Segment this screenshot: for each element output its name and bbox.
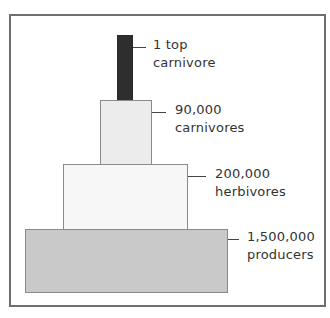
- herbivores-label: 200,000 herbivores: [215, 165, 286, 201]
- producers-group: producers: [247, 246, 315, 264]
- producers-block: [25, 229, 228, 293]
- carnivores-group: carnivores: [175, 119, 245, 137]
- herbivores-group: herbivores: [215, 183, 286, 201]
- herbivores-count: 200,000: [215, 165, 286, 183]
- carnivores-block: [100, 100, 152, 166]
- top-carnivore-leader-line: [133, 47, 146, 48]
- top-carnivore-bar: [117, 35, 133, 101]
- top-carnivore-group: carnivore: [153, 54, 216, 72]
- top-carnivore-label: 1 top carnivore: [153, 36, 216, 72]
- carnivores-count: 90,000: [175, 101, 245, 119]
- producers-count: 1,500,000: [247, 228, 315, 246]
- carnivores-label: 90,000 carnivores: [175, 101, 245, 137]
- carnivores-leader-line: [152, 112, 166, 113]
- producers-label: 1,500,000 producers: [247, 228, 315, 264]
- top-carnivore-count: 1 top: [153, 36, 216, 54]
- producers-leader-line: [228, 239, 239, 240]
- herbivores-leader-line: [188, 176, 206, 177]
- herbivores-block: [63, 164, 188, 230]
